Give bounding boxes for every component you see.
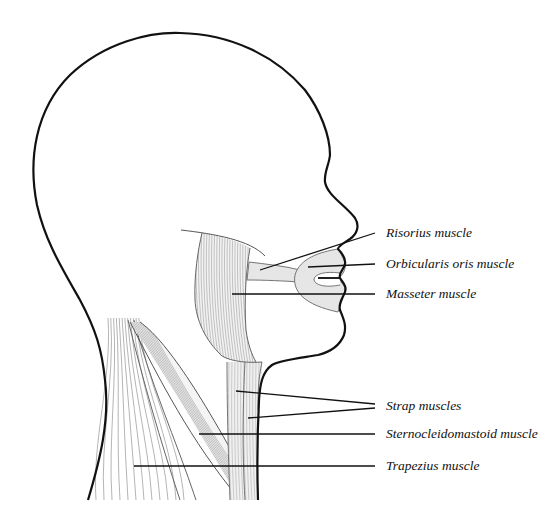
leader-strap-2	[248, 408, 375, 418]
label-trapezius-muscle: Trapezius muscle	[386, 458, 479, 474]
label-strap-muscles: Strap muscles	[386, 398, 461, 414]
trapezius-fibre	[116, 318, 120, 500]
masseter-striation	[258, 228, 267, 370]
label-orbicularis-oris-muscle: Orbicularis oris muscle	[386, 256, 514, 272]
label-sternocleidomastoid-muscle: Sternocleidomastoid muscle	[386, 426, 538, 442]
label-risorius-muscle: Risorius muscle	[386, 225, 472, 241]
label-masseter-muscle: Masseter muscle	[386, 286, 476, 302]
trapezius-fibre	[103, 318, 111, 500]
masseter-striation	[261, 228, 270, 370]
masseter-muscle	[193, 228, 269, 370]
mouth-inner-line	[314, 272, 340, 286]
masseter-striation	[250, 228, 259, 370]
